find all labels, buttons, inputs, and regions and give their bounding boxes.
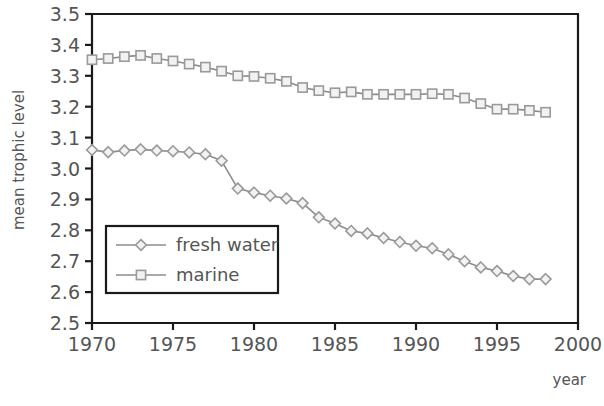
data-point-marker: [233, 71, 242, 80]
data-point-marker: [87, 55, 96, 64]
data-point-marker: [524, 274, 535, 285]
data-point-marker: [298, 83, 307, 92]
data-point-marker: [314, 86, 323, 95]
data-point-marker: [394, 237, 405, 248]
line-chart: 2.52.62.72.82.93.03.13.23.33.43.5 197019…: [0, 0, 604, 406]
data-point-marker: [249, 72, 258, 81]
data-point-marker: [216, 155, 227, 166]
data-point-marker: [120, 52, 129, 61]
data-point-marker: [201, 63, 210, 72]
data-point-marker: [282, 77, 291, 86]
y-tick-label: 3.3: [50, 65, 80, 87]
data-point-marker: [525, 106, 534, 115]
data-point-marker: [151, 145, 162, 156]
data-point-marker: [475, 262, 486, 273]
x-tick-label: 1975: [149, 333, 197, 355]
data-point-marker: [330, 218, 341, 229]
data-point-marker: [281, 193, 292, 204]
data-point-marker: [184, 147, 195, 158]
data-point-marker: [87, 145, 98, 156]
x-axis-tick-labels: 1970197519801985199019952000: [68, 333, 602, 355]
data-point-marker: [249, 187, 260, 198]
data-point-marker: [444, 90, 453, 99]
data-point-marker: [428, 89, 437, 98]
data-point-marker: [395, 90, 404, 99]
y-tick-label: 2.5: [50, 312, 80, 334]
data-point-marker: [104, 54, 113, 63]
data-point-marker: [411, 90, 420, 99]
y-tick-label: 3.5: [50, 3, 80, 25]
data-point-marker: [460, 93, 469, 102]
data-point-marker: [152, 54, 161, 63]
data-point-marker: [411, 240, 422, 251]
data-point-marker: [185, 59, 194, 68]
data-point-marker: [330, 88, 339, 97]
data-point-marker: [541, 108, 550, 117]
series-marine: [87, 51, 550, 117]
data-point-marker: [492, 105, 501, 114]
data-point-marker: [362, 228, 373, 239]
data-point-marker: [509, 105, 518, 114]
y-tick-label: 2.7: [50, 250, 80, 272]
chart-figure: 2.52.62.72.82.93.03.13.23.33.43.5 197019…: [0, 0, 604, 406]
data-point-marker: [136, 51, 145, 60]
x-axis-title: year: [553, 371, 587, 389]
data-point-marker: [492, 266, 503, 277]
data-point-marker: [103, 147, 114, 158]
x-tick-label: 1970: [68, 333, 116, 355]
x-tick-label: 2000: [554, 333, 602, 355]
data-point-marker: [379, 90, 388, 99]
data-point-marker: [346, 226, 357, 237]
data-point-marker: [459, 256, 470, 267]
y-tick-label: 3.1: [50, 127, 80, 149]
data-point-marker: [540, 274, 551, 285]
data-point-marker: [476, 99, 485, 108]
data-point-marker: [443, 249, 454, 260]
chart-legend: fresh watermarine: [106, 226, 279, 293]
y-tick-label: 2.6: [50, 281, 80, 303]
data-point-marker: [266, 74, 275, 83]
x-tick-label: 1985: [311, 333, 359, 355]
data-point-marker: [265, 190, 276, 201]
data-point-marker: [508, 271, 519, 282]
y-tick-label: 3.2: [50, 96, 80, 118]
data-point-marker: [119, 145, 130, 156]
data-point-marker: [168, 146, 179, 157]
x-tick-label: 1995: [473, 333, 521, 355]
data-point-marker: [200, 149, 211, 160]
legend-label: fresh water: [176, 234, 279, 255]
data-point-marker: [427, 243, 438, 254]
y-axis-title: mean trophic level: [10, 90, 28, 230]
data-point-marker: [168, 56, 177, 65]
data-point-marker: [378, 233, 389, 244]
y-tick-label: 3.0: [50, 158, 80, 180]
legend-marker: [136, 270, 145, 279]
data-point-marker: [347, 87, 356, 96]
data-point-marker: [217, 67, 226, 76]
y-tick-label: 2.9: [50, 188, 80, 210]
legend-label: marine: [176, 264, 239, 285]
y-tick-label: 2.8: [50, 219, 80, 241]
y-tick-label: 3.4: [50, 34, 80, 56]
data-point-marker: [363, 90, 372, 99]
x-tick-label: 1990: [392, 333, 440, 355]
data-point-marker: [232, 183, 243, 194]
y-axis-tick-labels: 2.52.62.72.82.93.03.13.23.33.43.5: [50, 3, 80, 334]
x-tick-label: 1980: [230, 333, 278, 355]
data-point-marker: [135, 144, 146, 155]
